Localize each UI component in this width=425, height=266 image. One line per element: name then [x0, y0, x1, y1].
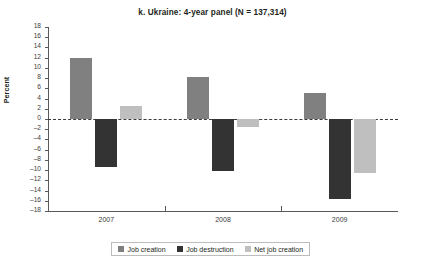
legend-item-job-destruction[interactable]: Job destruction	[177, 246, 234, 253]
y-tick: 4	[0, 99, 48, 100]
plot-area	[48, 27, 398, 211]
y-tick: –10	[0, 170, 48, 171]
x-tick-mark	[165, 206, 166, 211]
legend-label: Job destruction	[186, 246, 233, 253]
bar-job-destruction-2008	[212, 119, 234, 171]
legend-label: Job creation	[128, 246, 166, 253]
chart-figure: k. Ukraine: 4-year panel (N = 137,314) P…	[0, 0, 425, 266]
x-tick-mark	[281, 206, 282, 211]
bar-net-job-creation-2009	[354, 119, 376, 173]
y-tick-label: 18	[34, 22, 41, 29]
y-tick: 8	[0, 78, 48, 79]
y-tick: –14	[0, 191, 48, 192]
y-tick: 2	[0, 109, 48, 110]
y-tick: –8	[0, 160, 48, 161]
y-axis-label: Percent	[2, 60, 11, 120]
y-tick-label: –10	[30, 165, 41, 172]
y-tick: –12	[0, 180, 48, 181]
y-tick-label: 4	[37, 94, 41, 101]
y-tick-label: 8	[37, 73, 41, 80]
legend-swatch-icon	[118, 246, 124, 252]
y-tick-label: 0	[37, 114, 41, 121]
legend-label: Net job creation	[254, 246, 303, 253]
y-tick: –4	[0, 139, 48, 140]
y-tick: –2	[0, 129, 48, 130]
y-tick-label: –16	[30, 196, 41, 203]
y-tick-label: 16	[34, 32, 41, 39]
chart-title: k. Ukraine: 4-year panel (N = 137,314)	[0, 8, 425, 17]
x-tick-label-2009: 2009	[310, 216, 370, 223]
bar-net-job-creation-2007	[120, 106, 142, 119]
y-tick-label: –2	[34, 124, 41, 131]
bar-job-destruction-2009	[329, 119, 351, 199]
y-tick-label: –14	[30, 186, 41, 193]
y-tick-label: –12	[30, 175, 41, 182]
legend-swatch-icon	[177, 246, 183, 252]
x-tick-label-2007: 2007	[76, 216, 136, 223]
y-tick-label: 10	[34, 63, 41, 70]
y-tick-label: –8	[34, 155, 41, 162]
y-tick: 0	[0, 119, 48, 120]
y-tick: 12	[0, 58, 48, 59]
y-tick-label: 14	[34, 42, 41, 49]
y-tick: –16	[0, 201, 48, 202]
y-tick: 14	[0, 47, 48, 48]
bar-job-creation-2008	[187, 77, 209, 119]
x-axis-line	[48, 211, 398, 212]
y-tick: 6	[0, 88, 48, 89]
y-tick: –18	[0, 211, 48, 212]
legend-swatch-icon	[245, 246, 251, 252]
y-tick-mark	[45, 211, 49, 212]
y-tick-label: 6	[37, 83, 41, 90]
y-tick-label: 12	[34, 53, 41, 60]
y-tick-label: –18	[30, 206, 41, 213]
bar-job-destruction-2007	[95, 119, 117, 167]
bar-net-job-creation-2008	[237, 119, 259, 127]
chart-legend: Job creationJob destructionNet job creat…	[111, 242, 310, 256]
y-tick: 18	[0, 27, 48, 28]
y-tick-label: –6	[34, 145, 41, 152]
bar-job-creation-2009	[304, 93, 326, 119]
y-tick-label: –4	[34, 134, 41, 141]
y-tick-label: 2	[37, 104, 41, 111]
bar-job-creation-2007	[70, 58, 92, 119]
y-tick: –6	[0, 150, 48, 151]
legend-item-job-creation[interactable]: Job creation	[118, 246, 166, 253]
legend-item-net-job-creation[interactable]: Net job creation	[245, 246, 304, 253]
y-tick: 16	[0, 37, 48, 38]
x-tick-label-2008: 2008	[193, 216, 253, 223]
y-tick: 10	[0, 68, 48, 69]
